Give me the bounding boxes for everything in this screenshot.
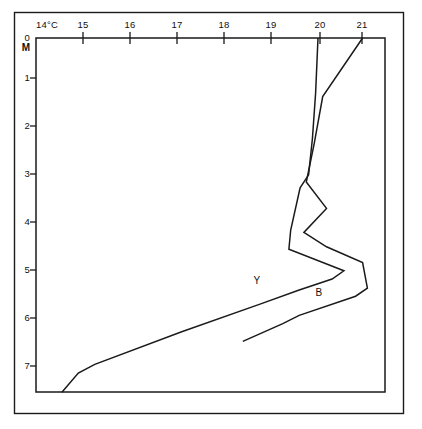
y-tick-label-1: 1 — [25, 72, 30, 83]
y-tick-label-7: 7 — [25, 360, 30, 371]
y-axis-ticks — [30, 78, 36, 366]
x-tick-label-6: 20 — [315, 19, 326, 30]
temperature-depth-chart: 14°C 15 16 17 18 19 20 21 0 1 2 3 4 5 6 — [0, 0, 422, 429]
chart-figure: 14°C 15 16 17 18 19 20 21 0 1 2 3 4 5 6 — [0, 0, 422, 429]
profile-line-b — [243, 38, 368, 341]
y-tick-label-6: 6 — [25, 312, 30, 323]
plot-area-border — [36, 38, 385, 392]
x-tick-label-0: 14°C — [36, 19, 58, 30]
y-tick-label-5: 5 — [25, 264, 30, 275]
series-label-y: Y — [254, 275, 261, 286]
figure-outer-border — [15, 13, 404, 414]
x-tick-label-7: 21 — [357, 19, 368, 30]
x-tick-label-4: 18 — [219, 19, 230, 30]
profile-line-y — [62, 38, 344, 392]
x-tick-label-5: 19 — [266, 19, 277, 30]
y-axis-unit-label: M — [22, 42, 30, 53]
series-label-b: B — [316, 287, 323, 298]
y-tick-label-2: 2 — [25, 120, 30, 131]
x-axis-tick-labels: 14°C 15 16 17 18 19 20 21 — [36, 19, 367, 30]
y-tick-label-4: 4 — [25, 216, 30, 227]
y-tick-label-3: 3 — [25, 168, 30, 179]
x-tick-label-1: 15 — [78, 19, 89, 30]
x-tick-label-3: 17 — [172, 19, 183, 30]
y-axis-tick-labels: 0 1 2 3 4 5 6 7 — [25, 32, 30, 371]
x-tick-label-2: 16 — [125, 19, 136, 30]
